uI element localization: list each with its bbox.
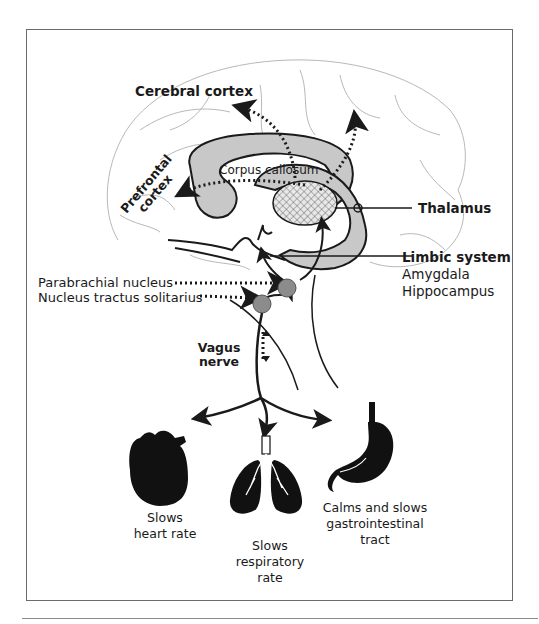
label-vagus-line1: Vagus	[195, 341, 243, 355]
caption-stomach-line2: gastrointestinal	[315, 516, 435, 532]
parabrachial-nucleus-icon	[278, 279, 296, 297]
caption-lungs-line2: respiratory	[225, 554, 315, 570]
diagram-canvas	[0, 0, 539, 624]
label-limbic-system: Limbic system	[402, 250, 511, 264]
label-vagus-line2: nerve	[195, 355, 243, 369]
caption-heart: Slows heart rate	[120, 510, 210, 542]
caption-stomach-line3: tract	[315, 532, 435, 548]
label-corpus-callosum: Corpus callosum	[219, 163, 318, 177]
stomach-icon	[328, 402, 394, 492]
label-amygdala: Amygdala	[402, 267, 470, 281]
brainstem-lines	[168, 225, 285, 262]
lungs-icon	[230, 436, 302, 514]
caption-heart-line1: Slows	[120, 510, 210, 526]
caption-lungs: Slows respiratory rate	[225, 538, 315, 586]
nts-nucleus-icon	[253, 295, 271, 313]
label-thalamus: Thalamus	[418, 201, 491, 215]
label-nucleus-tractus-solitarius: Nucleus tractus solitarius	[38, 291, 203, 305]
vagus-nerve-path	[198, 313, 325, 432]
caption-stomach: Calms and slows gastrointestinal tract	[315, 500, 435, 548]
heart-icon	[129, 431, 188, 506]
label-hippocampus: Hippocampus	[402, 284, 494, 298]
caption-stomach-line1: Calms and slows	[315, 500, 435, 516]
caption-lungs-line3: rate	[225, 570, 315, 586]
label-vagus-nerve: Vagus nerve	[195, 341, 243, 369]
label-parabrachial-nucleus: Parabrachial nucleus	[38, 276, 173, 290]
thalamus-shape	[273, 181, 337, 225]
caption-heart-line2: heart rate	[120, 526, 210, 542]
label-cerebral-cortex: Cerebral cortex	[135, 84, 253, 98]
caption-lungs-line1: Slows	[225, 538, 315, 554]
